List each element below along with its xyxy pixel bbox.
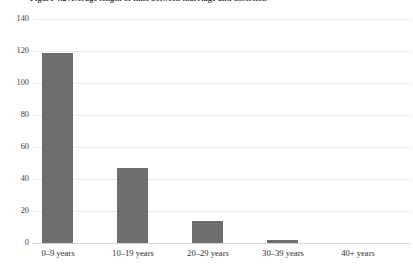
- y-tick-label-0: 0: [3, 239, 29, 247]
- y-tick-label-60: 60: [3, 143, 29, 151]
- x-tick-label-10-19-years: 10–19 years: [96, 247, 170, 259]
- x-axis-labels: 0–9 years 10–19 years 20–29 years 30–39 …: [33, 247, 410, 263]
- axis-baseline: [33, 243, 410, 244]
- bar-0-9-years: [42, 53, 73, 243]
- plot-area: [33, 19, 410, 243]
- bar-10-19-years: [117, 168, 148, 243]
- bar-20-29-years: [192, 221, 223, 243]
- y-tick-label-80: 80: [3, 111, 29, 119]
- x-tick-label-30-39-years: 30–39 years: [246, 247, 320, 259]
- y-tick-label-40: 40: [3, 175, 29, 183]
- bar-30-39-years: [267, 240, 298, 243]
- x-tick-label-20-29-years: 20–29 years: [171, 247, 245, 259]
- y-axis-labels: 140 120 100 80 60 40 20 0: [0, 19, 29, 243]
- x-tick-label-40-plus-years: 40+ years: [321, 247, 395, 259]
- y-tick-label-140: 140: [3, 15, 29, 23]
- x-tick-label-0-9-years: 0–9 years: [21, 247, 95, 259]
- bar-series: [33, 19, 410, 243]
- y-tick-label-100: 100: [3, 79, 29, 87]
- y-tick-label-120: 120: [3, 47, 29, 55]
- figure-container: Figure 4.2 Average length of time betwee…: [0, 0, 413, 265]
- y-tick-label-20: 20: [3, 207, 29, 215]
- chart-title: Figure 4.2 Average length of time betwee…: [30, 0, 410, 4]
